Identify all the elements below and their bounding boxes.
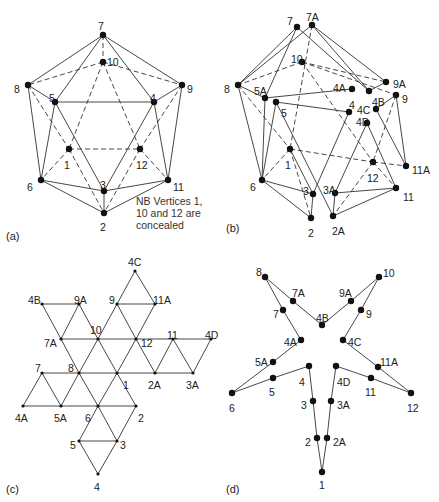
vertex-label-3: 3 bbox=[301, 399, 307, 411]
edge-9-12 bbox=[117, 304, 136, 339]
hidden-edge-12-11A bbox=[373, 162, 406, 166]
edge-2A-1 bbox=[322, 438, 327, 472]
panel-d: 1234567891011127A9A4B4A4C5A11A4D3A2A(d) bbox=[226, 266, 419, 495]
vertex-label-2A: 2A bbox=[333, 436, 346, 448]
vertex-label-4D: 4D bbox=[337, 376, 351, 388]
vertex-6 bbox=[96, 404, 99, 407]
vertex-10 bbox=[100, 59, 106, 65]
vertex-label-4A: 4A bbox=[284, 336, 297, 348]
vertex-label-6: 6 bbox=[250, 181, 256, 193]
vertex-1 bbox=[287, 146, 293, 152]
vertex-label-12: 12 bbox=[407, 402, 419, 414]
edge-6-3 bbox=[41, 180, 104, 191]
edge-9-11 bbox=[168, 85, 182, 180]
vertex-5 bbox=[77, 439, 80, 442]
vertex-2 bbox=[308, 215, 314, 221]
vertex-6 bbox=[38, 177, 44, 183]
edge-9A-7A bbox=[61, 304, 79, 339]
edge-3-11 bbox=[104, 180, 168, 191]
vertex-9 bbox=[179, 82, 185, 88]
vertex-label-11: 11 bbox=[403, 191, 414, 203]
panel-c: 1234567891011124C4B9A11A7A4D2A3A4A5A(c) bbox=[6, 256, 219, 495]
vertex-label-5A: 5A bbox=[255, 356, 268, 368]
vertex-label-2A: 2A bbox=[148, 379, 161, 391]
vertex-label-7: 7 bbox=[35, 362, 41, 374]
edge-1-6 bbox=[98, 373, 117, 406]
edge-10-1 bbox=[98, 339, 117, 373]
vertex-label-7: 7 bbox=[273, 308, 279, 320]
vertex-1 bbox=[319, 469, 325, 475]
vertex-1 bbox=[115, 371, 118, 374]
vertex-4 bbox=[306, 363, 312, 369]
edge-5-3 bbox=[55, 102, 104, 191]
vertex-label-7A: 7A bbox=[306, 11, 319, 23]
vertex-label-7A: 7A bbox=[44, 337, 57, 349]
vertex-4A bbox=[298, 337, 304, 343]
icosahedron-figure: 123456789101112(a)1234567891011127A9A5A4… bbox=[0, 0, 439, 502]
panel-label-d: (d) bbox=[226, 483, 239, 495]
vertex-4D bbox=[333, 363, 339, 369]
vertex-label-7A: 7A bbox=[292, 287, 305, 299]
hidden-edge-12-2A bbox=[333, 162, 373, 216]
concealed-vertices-note: NB Vertices 1, 10 and 12 are concealed bbox=[136, 195, 226, 231]
vertex-label-8: 8 bbox=[224, 83, 230, 95]
vertex-7 bbox=[100, 32, 106, 38]
vertex-label-7: 7 bbox=[287, 15, 293, 27]
vertex-label-4B: 4B bbox=[372, 96, 385, 108]
vertex-1 bbox=[66, 146, 72, 152]
vertex-4C bbox=[373, 106, 379, 112]
vertex-12 bbox=[408, 390, 414, 396]
edge-9-11A bbox=[396, 95, 406, 166]
edge-2-1 bbox=[317, 438, 322, 472]
vertex-label-4: 4 bbox=[349, 99, 355, 111]
edge-4-3 bbox=[309, 366, 313, 401]
edge-9-4C bbox=[117, 271, 135, 304]
vertex-label-4A: 4A bbox=[333, 82, 346, 94]
vertex-label-11A: 11A bbox=[153, 294, 171, 306]
panel-b: 1234567891011127A9A5A4A4B4C4D11A3A2A(b) bbox=[224, 11, 430, 239]
vertex-label-2: 2 bbox=[100, 221, 106, 233]
edge-4D-3A bbox=[193, 339, 211, 373]
vertex-7 bbox=[40, 371, 43, 374]
vertex-9A bbox=[383, 79, 389, 85]
edge-3A-2A bbox=[333, 193, 335, 216]
edge-10-9 bbox=[361, 277, 379, 310]
edge-4B-7A bbox=[42, 304, 61, 339]
vertex-7 bbox=[280, 307, 286, 313]
vertex-label-1: 1 bbox=[285, 159, 291, 171]
edge-7-5 bbox=[55, 35, 103, 102]
edge-5-6 bbox=[41, 102, 55, 180]
note-line-2: 10 and 12 are bbox=[136, 207, 226, 219]
edge-7-5A bbox=[42, 373, 61, 406]
vertex-label-8: 8 bbox=[14, 83, 20, 95]
vertex-9 bbox=[393, 92, 399, 98]
vertex-label-1: 1 bbox=[319, 479, 325, 491]
vertex-label-11A: 11A bbox=[380, 356, 398, 368]
vertex-label-3: 3 bbox=[303, 185, 309, 197]
edge-3-4 bbox=[98, 441, 117, 474]
vertex-label-6: 6 bbox=[85, 412, 91, 424]
vertex-6 bbox=[259, 177, 265, 183]
edge-7-8 bbox=[28, 35, 103, 85]
vertex-label-11A: 11A bbox=[412, 164, 430, 176]
edge-8-6 bbox=[28, 85, 41, 180]
vertex-label-9: 9 bbox=[187, 83, 193, 95]
edge-5-4 bbox=[79, 441, 98, 474]
vertex-label-4A: 4A bbox=[15, 412, 28, 424]
vertex-11A bbox=[403, 163, 409, 169]
vertex-label-10: 10 bbox=[90, 324, 102, 336]
vertex-4B bbox=[366, 88, 372, 94]
panel-label-c: (c) bbox=[6, 483, 19, 495]
edge-6-5 bbox=[232, 378, 273, 393]
vertex-4A bbox=[349, 86, 355, 92]
vertex-5 bbox=[270, 375, 276, 381]
vertex-7A bbox=[59, 337, 62, 340]
vertex-label-3A: 3A bbox=[186, 379, 199, 391]
vertex-3 bbox=[310, 191, 316, 197]
vertex-label-10: 10 bbox=[107, 56, 119, 68]
edge-4-3 bbox=[104, 102, 154, 191]
edge-7-8 bbox=[238, 27, 297, 85]
note-line-1: NB Vertices 1, bbox=[136, 195, 226, 207]
vertex-4C bbox=[133, 269, 136, 272]
vertex-8 bbox=[77, 371, 80, 374]
